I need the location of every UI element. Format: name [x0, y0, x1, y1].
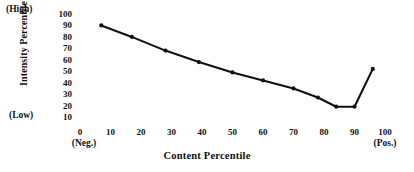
series-markers — [99, 23, 375, 109]
data-point — [261, 78, 265, 82]
series-line — [101, 25, 373, 106]
data-point — [197, 60, 201, 64]
x-axis-title: Content Percentile — [0, 150, 414, 161]
data-point — [230, 70, 234, 74]
data-point — [99, 23, 103, 27]
line-plot-area — [0, 0, 414, 172]
data-point — [130, 35, 134, 39]
chart-figure: (High) (Low) Intensity Percentile 100908… — [0, 0, 414, 172]
data-point — [334, 105, 338, 109]
data-point — [291, 86, 295, 90]
data-point — [371, 67, 375, 71]
data-point — [352, 105, 356, 109]
data-point — [316, 95, 320, 99]
data-point — [163, 49, 167, 53]
